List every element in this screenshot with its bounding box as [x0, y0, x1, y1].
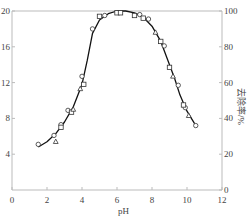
square-marker — [118, 11, 122, 15]
y-right-tick-label: 60 — [224, 78, 234, 88]
y-right-tick-label: 0 — [224, 185, 229, 195]
y-left-tick-label: 4 — [6, 149, 11, 159]
circle-marker — [90, 27, 94, 31]
x-tick-label: 4 — [80, 195, 85, 205]
circle-marker — [162, 44, 166, 48]
y-right-tick-label: 20 — [224, 149, 234, 159]
circle-marker — [146, 17, 150, 21]
circle-marker — [52, 133, 56, 137]
square-marker — [82, 82, 86, 86]
x-tick-label: 2 — [45, 195, 50, 205]
y-left-tick-label: 16 — [1, 42, 11, 52]
triangle-marker — [171, 74, 176, 78]
y-right-tick-label: 100 — [224, 6, 238, 16]
y-right-tick-label: 80 — [224, 42, 234, 52]
circle-marker — [176, 83, 180, 87]
square-marker — [132, 13, 136, 17]
square-marker — [167, 65, 171, 69]
x-tick-label: 10 — [183, 195, 193, 205]
y-left-tick-label: 8 — [6, 113, 11, 123]
y-left-tick-label: 20 — [1, 6, 11, 16]
square-marker — [141, 16, 145, 20]
triangle-marker — [53, 139, 58, 143]
data-points — [36, 11, 198, 147]
x-tick-label: 8 — [150, 195, 155, 205]
chart: 02468101248121620020406080100 pH 去除率/% — [0, 0, 248, 220]
triangle-marker — [186, 113, 191, 117]
y-left-tick-label: 12 — [1, 78, 10, 88]
x-tick-label: 6 — [115, 195, 120, 205]
y-right-tick-label: 40 — [224, 113, 234, 123]
square-marker — [159, 39, 163, 43]
square-marker — [97, 14, 101, 18]
x-tick-label: 0 — [10, 195, 15, 205]
square-marker — [59, 125, 63, 129]
circle-marker — [80, 74, 84, 78]
circle-marker — [194, 123, 198, 127]
circle-marker — [103, 13, 107, 17]
square-marker — [181, 103, 185, 107]
y-right-axis-label: 去除率/% — [236, 88, 247, 126]
circle-marker — [36, 142, 40, 146]
x-tick-label: 12 — [218, 195, 227, 205]
x-axis-label: pH — [118, 206, 130, 216]
axes: 02468101248121620020406080100 — [1, 6, 238, 205]
